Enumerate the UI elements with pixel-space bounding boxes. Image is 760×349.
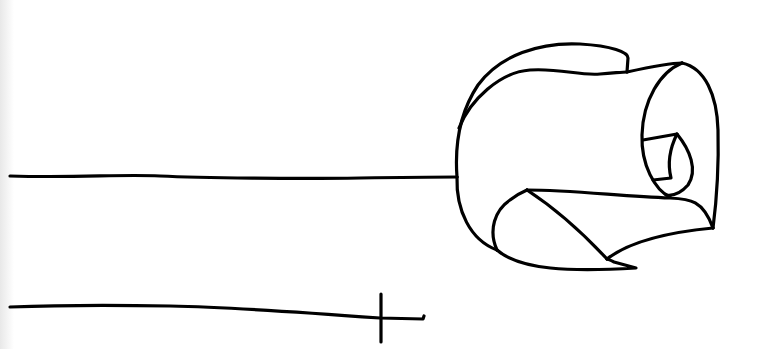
sketch-canvas	[0, 0, 760, 349]
upper-line	[10, 175, 457, 178]
lower-line	[10, 294, 424, 342]
rolled-shape	[456, 44, 718, 270]
